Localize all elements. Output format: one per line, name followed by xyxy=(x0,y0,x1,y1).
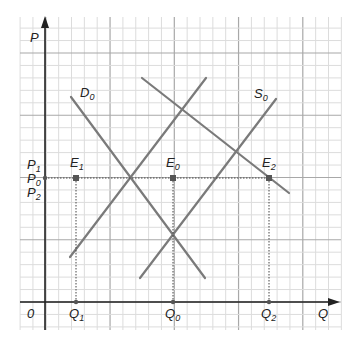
quantity-label-q1: Q1 xyxy=(69,306,84,323)
q1-tick xyxy=(74,300,78,304)
q2-tick xyxy=(267,300,271,304)
p-axis-label: P xyxy=(30,30,39,45)
e2-point xyxy=(266,175,272,181)
quantity-label-q0: Q0 xyxy=(165,306,180,323)
demand-label-d0: D0 xyxy=(80,85,94,102)
graph-grid xyxy=(20,17,341,330)
supply-curve-s0 xyxy=(140,99,276,278)
supply-curve-left xyxy=(70,78,206,257)
e0-point xyxy=(170,175,176,181)
equilibrium-label-e0: E0 xyxy=(166,155,180,172)
demand-curve-d0 xyxy=(71,97,205,278)
equilibrium-label-e1: E1 xyxy=(70,155,84,172)
q0-tick xyxy=(171,300,175,304)
equilibrium-label-e2: E2 xyxy=(262,155,276,172)
supply-label-s0: S0 xyxy=(254,86,268,103)
p-axis-arrow-icon xyxy=(41,16,49,28)
q-axis-label: Q xyxy=(318,306,328,321)
supply-demand-diagram: P Q 0 P1 P0 P2 Q1 Q0 Q2 D0 S0 E1 E0 E2 xyxy=(0,0,357,340)
q-axis-arrow-icon xyxy=(328,298,340,306)
quantity-label-q2: Q2 xyxy=(261,306,276,323)
origin-label: 0 xyxy=(27,306,35,321)
e1-point xyxy=(73,175,79,181)
p0-tick xyxy=(43,176,47,180)
